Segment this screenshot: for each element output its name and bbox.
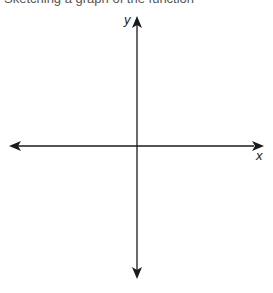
y-axis bbox=[132, 16, 142, 279]
coordinate-axes bbox=[0, 0, 273, 293]
x-axis-label: x bbox=[256, 148, 263, 163]
y-axis-label: y bbox=[124, 12, 131, 27]
